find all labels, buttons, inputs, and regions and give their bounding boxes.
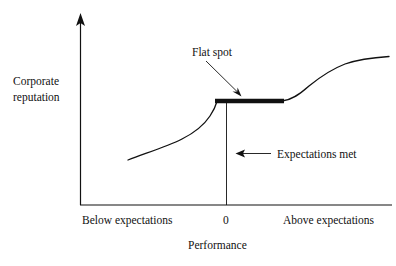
curve-upper-branch: [282, 57, 389, 102]
x-tick-label-zero: 0: [223, 214, 229, 226]
flat-spot-leader-line: [206, 61, 238, 92]
flat-spot-label: Flat spot: [192, 46, 233, 59]
expectations-met-label: Expectations met: [277, 148, 357, 161]
x-tick-label-above: Above expectations: [283, 214, 375, 227]
y-axis-label-line1: Corporate: [13, 75, 59, 88]
y-axis-label-line2: reputation: [13, 91, 60, 104]
reputation-performance-diagram: Flat spot Expectations met Corporate rep…: [0, 0, 396, 266]
x-tick-label-below: Below expectations: [82, 214, 173, 227]
diagram-canvas: Flat spot Expectations met Corporate rep…: [0, 0, 396, 266]
x-axis-label: Performance: [188, 239, 247, 251]
curve-lower-branch: [128, 102, 217, 161]
